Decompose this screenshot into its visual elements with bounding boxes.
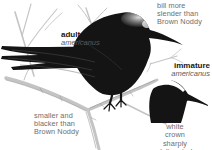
perch-branch: [88, 110, 99, 149]
immature-head-inset: [149, 79, 208, 123]
claws: [116, 100, 126, 107]
crown-annotation: white crown sharply delineated at rear: [157, 123, 194, 150]
perch-branch: [6, 78, 88, 110]
twig: [22, 4, 31, 36]
adult-label: adult americanus: [61, 30, 100, 48]
field-guide-plate: bill more slender than Brown Noddy adult…: [0, 0, 212, 150]
claws: [104, 103, 115, 111]
size-annotation: smaller and blacker than Brown Noddy: [34, 112, 79, 137]
adult-label-subspecies: americanus: [61, 39, 100, 48]
immature-label: immature americanus: [171, 61, 210, 79]
immature-label-subspecies: americanus: [171, 70, 210, 79]
branch-shade-line: [6, 80, 86, 111]
bill-annotation: bill more slender than Brown Noddy: [157, 2, 202, 27]
immature-bill: [184, 93, 208, 106]
twig: [147, 63, 151, 72]
twig: [45, 13, 62, 30]
twig: [27, 9, 57, 48]
